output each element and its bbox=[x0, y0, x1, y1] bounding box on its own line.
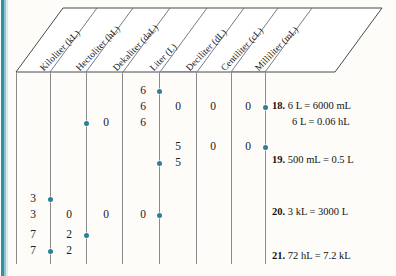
cell-digit: 0 bbox=[206, 140, 220, 152]
cell-digit: 0 bbox=[171, 100, 185, 112]
decimal-point-dot bbox=[263, 105, 268, 110]
cell-digit: 5 bbox=[171, 156, 185, 168]
cell-digit: 6 bbox=[136, 100, 150, 112]
cell-digit: 0 bbox=[136, 208, 150, 220]
cell-digit: 7 bbox=[26, 244, 40, 256]
answer-item: 21. 72 hL = 7.2 kL bbox=[272, 250, 351, 261]
cell-digit: 0 bbox=[99, 208, 113, 220]
answer-text: 72 hL = 7.2 kL bbox=[288, 250, 351, 261]
answer-item-secondary: 6 L = 0.06 hL bbox=[292, 116, 350, 127]
cell-digit: 0 bbox=[241, 100, 255, 112]
answer-item: 20. 3 kL = 3000 L bbox=[272, 206, 348, 217]
decimal-point-dot bbox=[84, 121, 89, 126]
answer-number: 21. bbox=[272, 250, 285, 261]
worksheet-page: Kiloliter (kL) Hectoliter (hL) Dekaliter… bbox=[0, 0, 396, 276]
answer-text: 6 L = 0.06 hL bbox=[292, 116, 350, 127]
cell-digit: 5 bbox=[171, 140, 185, 152]
gridline-dekaliter-right bbox=[122, 72, 123, 264]
answer-number: 19. bbox=[272, 154, 285, 165]
answer-text: 6 L = 6000 mL bbox=[288, 100, 351, 111]
decimal-point-dot bbox=[48, 249, 53, 254]
gridline-milliliter-right bbox=[265, 72, 266, 264]
chart-header-band: Kiloliter (kL) Hectoliter (hL) Dekaliter… bbox=[16, 8, 382, 72]
gridline-liter-right bbox=[159, 72, 160, 264]
gridline-kiloliter-right bbox=[50, 72, 51, 264]
cell-digit: 0 bbox=[206, 100, 220, 112]
answer-text: 500 mL = 0.5 L bbox=[288, 154, 354, 165]
gridline-deciliter-right bbox=[196, 72, 197, 264]
decimal-point-dot bbox=[157, 213, 162, 218]
answer-text: 3 kL = 3000 L bbox=[288, 206, 348, 217]
cell-digit: 2 bbox=[62, 228, 76, 240]
gridline-left-border bbox=[16, 72, 17, 264]
cell-digit: 6 bbox=[136, 84, 150, 96]
gridline-centiliter-right bbox=[231, 72, 232, 264]
decimal-point-dot bbox=[157, 89, 162, 94]
cell-digit: 3 bbox=[26, 192, 40, 204]
decimal-point-dot bbox=[48, 197, 53, 202]
answer-number: 18. bbox=[272, 100, 285, 111]
answer-item: 19. 500 mL = 0.5 L bbox=[272, 154, 354, 165]
decimal-point-dot bbox=[263, 145, 268, 150]
cell-digit: 0 bbox=[241, 140, 255, 152]
answer-number: 20. bbox=[272, 206, 285, 217]
cell-digit: 6 bbox=[136, 116, 150, 128]
decimal-point-dot bbox=[157, 161, 162, 166]
cell-digit: 3 bbox=[26, 208, 40, 220]
cell-digit: 0 bbox=[62, 208, 76, 220]
cell-digit: 7 bbox=[26, 228, 40, 240]
answer-item: 18. 6 L = 6000 mL bbox=[272, 100, 351, 111]
cell-digit: 2 bbox=[62, 244, 76, 256]
cell-digit: 0 bbox=[99, 116, 113, 128]
decimal-point-dot bbox=[84, 233, 89, 238]
